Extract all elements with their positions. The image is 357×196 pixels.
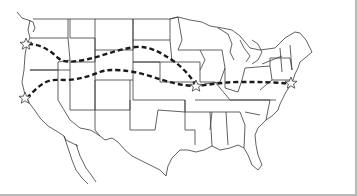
star-marker-east [285,77,297,88]
baja-outline [64,136,96,184]
gulf-coast [80,128,188,176]
great-lakes-outline [218,28,282,64]
map-frame [0,0,357,196]
puget-sound-outline [17,12,35,32]
star-marker-west [19,92,31,103]
us-outline-map [0,0,357,196]
northern-border [33,17,312,52]
route-southern [27,70,292,98]
